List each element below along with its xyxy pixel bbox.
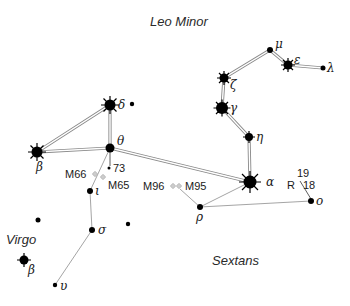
- label-beta-leo: β: [35, 160, 43, 174]
- label-rho: ρ: [195, 210, 203, 224]
- galaxy-m65-icon: [100, 174, 106, 180]
- star-delta: [101, 96, 119, 114]
- bright-stars: [17, 58, 295, 267]
- label-sigma: σ: [98, 223, 107, 237]
- label-18: 18: [303, 179, 315, 191]
- label-19: 19: [297, 167, 309, 179]
- star-unnamed-2: [36, 218, 41, 223]
- label-m95: M95: [185, 180, 206, 192]
- galaxy-m96-icon: [170, 183, 176, 189]
- label-iota: ι: [95, 184, 100, 198]
- label-m65: M65: [108, 179, 129, 191]
- label-leo-minor: Leo Minor: [150, 14, 208, 29]
- label-r-variable: R: [287, 179, 295, 191]
- star-epsilon: [281, 58, 295, 72]
- star-beta-leo: [28, 143, 46, 161]
- star-upsilon: [53, 283, 57, 287]
- label-virgo: Virgo: [6, 232, 36, 247]
- label-upsilon: υ: [60, 279, 67, 293]
- star-theta: [106, 144, 115, 153]
- label-delta: δ: [118, 98, 125, 112]
- label-beta-virgo: β: [27, 263, 35, 277]
- label-gamma: γ: [230, 101, 238, 115]
- star-unnamed-3: [126, 222, 130, 226]
- asterism-double-lines: [37, 50, 323, 182]
- label-zeta: ζ: [230, 78, 238, 92]
- star-omicron: [308, 198, 314, 204]
- label-alpha: α: [266, 175, 274, 189]
- star-zeta: [217, 71, 231, 85]
- label-m96: M96: [143, 180, 164, 192]
- leo-star-chart: Leo Minor Virgo Sextans: [0, 0, 350, 306]
- star-unnamed-1: [130, 102, 134, 106]
- star-alpha: [239, 171, 261, 193]
- star-73: [108, 167, 111, 170]
- galaxy-symbols: [92, 171, 182, 189]
- label-mu: μ: [275, 37, 283, 51]
- asterism-single-lines: [55, 148, 311, 285]
- star-iota: [87, 188, 93, 194]
- star-mu: [267, 47, 273, 53]
- label-omicron: ο: [316, 194, 323, 208]
- label-sextans: Sextans: [212, 253, 259, 268]
- label-eta: η: [256, 130, 264, 144]
- star-lambda: [321, 66, 326, 71]
- label-73: 73: [113, 162, 125, 174]
- label-m66: M66: [65, 168, 86, 180]
- label-theta: θ: [117, 134, 125, 148]
- label-epsilon: ε: [294, 53, 300, 67]
- star-gamma: [214, 100, 231, 117]
- label-lambda: λ: [326, 61, 335, 75]
- galaxy-m95-icon: [176, 183, 182, 189]
- star-sigma: [89, 227, 95, 233]
